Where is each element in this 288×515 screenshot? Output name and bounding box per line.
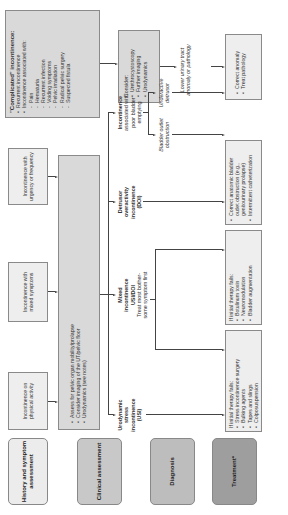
stage-diagnosis-label: Diagnosis [169, 457, 176, 486]
stage-treatment-label: Treatment* [231, 456, 238, 487]
treatment-doi-item: Bladder augmentation [247, 234, 253, 321]
treatment-usi-box: If initial therapy fails: Stress inconti… [225, 330, 262, 432]
diagnosis-doi-line: (DOI) [136, 174, 142, 230]
anomaly-box: Correct anomaly Treat pathology [225, 34, 262, 100]
history-physical-box: Incontinence on physical activity [8, 372, 48, 430]
diagnosis-doi: Detrusor overactivity incontinence (DOI) [117, 174, 142, 230]
stage-clinical: Clinical assessment [77, 438, 122, 505]
diagnosis-usi-line: (USI) [136, 390, 142, 440]
stage-clinical-label: Clinical assessment [96, 443, 103, 500]
diagnosis-mixed: Mixed incontinence USI/DOI Treat most bo… [117, 265, 148, 325]
stage-history-label: History and symptom assessment [21, 439, 35, 504]
stage-treatment: Treatment* [212, 438, 257, 505]
history-urgency-box: Incontinence with urgency or frequency [8, 148, 48, 205]
history-urgency-text: Incontinence with urgency or frequency [22, 152, 34, 201]
consider-item: Urodynamics [142, 36, 148, 97]
treatment-doi-box: If initial therapy fails: Botulinum toxi… [225, 230, 262, 325]
history-mixed-text: Incontinence with mixed symptoms [22, 266, 34, 318]
anomaly-item: Treat pathology [240, 40, 246, 94]
outlet-obstruction-label: Bladder outlet obstruction [158, 115, 171, 155]
treatment-poor-item: Correct anatomic bladder outlet obstruct… [228, 144, 247, 221]
underactive-detrusor-label: Underactive detrusor [158, 75, 171, 111]
flowchart: History and symptom assessment Clinical … [0, 0, 288, 515]
stage-history: History and symptom assessment [8, 438, 48, 505]
treatment-poor-item: Intermittent catheterization [247, 144, 253, 221]
assess-item: Urodynamics (see notes) [81, 162, 87, 423]
complicated-box: "Complicated" incontinence: Recurrent in… [5, 10, 100, 118]
diagnosis-mixed-note: some symptom first [142, 265, 148, 325]
treatment-poor-emptying-box: Correct anatomic bladder outlet obstruct… [225, 140, 262, 225]
diagnosis-poor-line: emptying [136, 85, 142, 140]
treatment-usi-item: Colposuspension [253, 334, 259, 428]
assess-box: Assess for pelvic organ mobility/prolaps… [58, 155, 100, 430]
diagnosis-usi: Urodynamic stress incontinence (USI) [117, 390, 142, 440]
stage-diagnosis: Diagnosis [150, 438, 195, 505]
history-physical-text: Incontinence on physical activity [22, 376, 34, 426]
diagnosis-poor-emptying: Incontinence associated with poor bladde… [117, 85, 142, 140]
complicated-subitem: Suspected fistula [65, 15, 71, 108]
lower-urinary-label: Lower urinary tract anomaly or pathology [179, 40, 192, 100]
history-mixed-box: Incontinence with mixed symptoms [8, 262, 48, 322]
